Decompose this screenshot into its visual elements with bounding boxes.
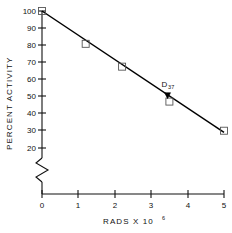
y-tick-label: 80 bbox=[27, 41, 36, 50]
x-tick-label: 5 bbox=[222, 201, 227, 210]
y-tick-label: 90 bbox=[27, 24, 36, 33]
y-tick-label: 70 bbox=[27, 58, 36, 67]
y-tick-label: 40 bbox=[27, 109, 36, 118]
x-axis-title: RADS X 10 6 bbox=[103, 215, 165, 226]
x-tick-label: 0 bbox=[40, 201, 45, 210]
d37-sublabel: 37 bbox=[168, 84, 174, 90]
x-axis-title-exponent: 6 bbox=[162, 215, 165, 221]
x-tick-label: 3 bbox=[149, 201, 154, 210]
y-axis-title: PERCENT ACTIVITY bbox=[5, 57, 14, 150]
fit-line bbox=[42, 11, 224, 132]
y-tick-label: 100 bbox=[23, 7, 37, 16]
x-axis-tick-labels: 0 1 2 3 4 5 bbox=[40, 201, 227, 210]
y-axis-tick-labels: 100 90 80 70 60 50 40 30 20 bbox=[23, 7, 37, 153]
survival-curve-plot: 100 90 80 70 60 50 40 30 20 0 1 2 3 4 5 bbox=[0, 0, 232, 233]
y-tick-label: 50 bbox=[27, 92, 36, 101]
d37-annotation: D 37 bbox=[162, 80, 175, 90]
y-tick-label: 60 bbox=[27, 75, 36, 84]
y-tick-label: 20 bbox=[27, 144, 36, 153]
data-point-marker bbox=[166, 98, 173, 105]
axis-break-symbol bbox=[36, 158, 48, 182]
x-axis-title-base: RADS X 10 bbox=[103, 217, 154, 226]
d37-label: D bbox=[162, 80, 168, 89]
chart-figure: 100 90 80 70 60 50 40 30 20 0 1 2 3 4 5 bbox=[0, 0, 232, 233]
y-tick-label: 30 bbox=[27, 126, 36, 135]
x-tick-label: 1 bbox=[76, 201, 81, 210]
x-tick-label: 4 bbox=[186, 201, 191, 210]
x-tick-label: 2 bbox=[113, 201, 118, 210]
